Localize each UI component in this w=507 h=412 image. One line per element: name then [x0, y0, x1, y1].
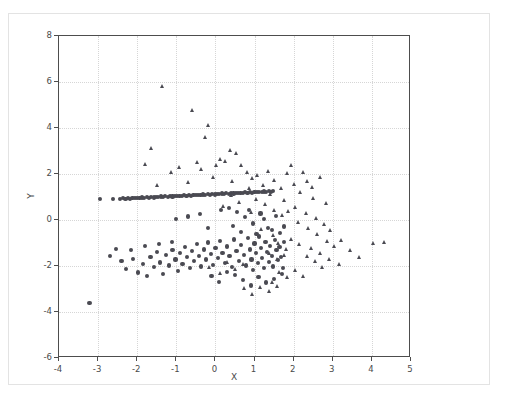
- data-point-triangles: [149, 146, 153, 150]
- data-point-circles: [204, 257, 208, 261]
- data-point-circles: [225, 244, 229, 248]
- data-point-circles: [183, 245, 187, 249]
- data-point-triangles: [247, 186, 251, 190]
- data-point-triangles: [259, 227, 263, 231]
- data-point-circles: [188, 266, 192, 270]
- data-point-triangles: [160, 84, 164, 88]
- data-point-triangles: [186, 180, 190, 184]
- data-point-triangles: [239, 163, 243, 167]
- x-tick-mark: [97, 357, 98, 361]
- data-point-triangles: [289, 163, 293, 167]
- data-point-circles: [243, 215, 247, 219]
- x-tick-mark: [371, 357, 372, 361]
- y-tick-label: 8: [30, 30, 52, 40]
- data-point-circles: [206, 226, 210, 230]
- data-point-circles: [164, 253, 168, 257]
- data-point-triangles: [292, 182, 296, 186]
- data-point-triangles: [177, 165, 181, 169]
- data-point-circles: [218, 239, 222, 243]
- y-tick-label: -6: [30, 352, 52, 362]
- data-point-triangles: [285, 275, 289, 279]
- x-tick-mark: [293, 357, 294, 361]
- data-point-triangles: [328, 228, 332, 232]
- data-point-triangles: [293, 268, 297, 272]
- y-tick-mark: [54, 127, 58, 128]
- data-point-triangles: [223, 159, 227, 163]
- data-point-circles: [190, 249, 194, 253]
- data-point-triangles: [297, 242, 301, 246]
- x-tick-label: 5: [407, 364, 412, 374]
- x-tick-label: 0: [212, 364, 217, 374]
- data-point-circles: [98, 197, 102, 201]
- data-point-circles: [174, 217, 178, 221]
- data-point-circles: [268, 244, 272, 248]
- data-point-circles: [227, 254, 231, 258]
- data-point-circles: [158, 260, 162, 264]
- data-point-circles: [254, 251, 258, 255]
- y-tick-label: -2: [30, 260, 52, 270]
- data-point-triangles: [280, 213, 284, 217]
- data-point-circles: [145, 274, 149, 278]
- data-point-triangles: [230, 179, 234, 183]
- x-tick-label: -3: [93, 364, 101, 374]
- y-tick-label: 4: [30, 122, 52, 132]
- data-point-circles: [271, 264, 275, 268]
- data-point-circles: [185, 255, 189, 259]
- data-point-circles: [186, 214, 190, 218]
- y-tick-label: 6: [30, 76, 52, 86]
- data-point-triangles: [266, 169, 270, 173]
- data-point-circles: [180, 262, 184, 266]
- data-point-triangles: [261, 183, 265, 187]
- data-point-triangles: [233, 267, 237, 271]
- data-point-triangles: [228, 148, 232, 152]
- data-point-triangles: [279, 186, 283, 190]
- x-tick-mark: [136, 357, 137, 361]
- data-point-triangles: [282, 198, 286, 202]
- data-point-triangles: [301, 274, 305, 278]
- data-point-circles: [259, 246, 263, 250]
- y-tick-mark: [54, 173, 58, 174]
- data-point-circles: [173, 257, 177, 261]
- data-point-triangles: [310, 185, 314, 189]
- data-point-triangles: [318, 175, 322, 179]
- data-point-circles: [270, 228, 274, 232]
- data-point-circles: [213, 246, 217, 250]
- data-point-triangles: [284, 247, 288, 251]
- data-point-circles: [209, 274, 213, 278]
- data-point-triangles: [214, 163, 218, 167]
- data-point-triangles: [348, 248, 352, 252]
- data-point-circles: [131, 257, 135, 261]
- data-point-triangles: [357, 255, 361, 259]
- data-point-circles: [277, 245, 281, 249]
- data-point-triangles: [305, 179, 309, 183]
- data-point-circles: [108, 254, 112, 258]
- data-point-circles: [256, 275, 260, 279]
- data-point-triangles: [311, 196, 315, 200]
- data-point-circles: [233, 273, 237, 277]
- data-point-triangles: [218, 157, 222, 161]
- data-point-circles: [282, 240, 286, 244]
- data-point-circles: [176, 269, 180, 273]
- y-axis-title: Y: [26, 193, 36, 199]
- data-point-triangles: [271, 233, 275, 237]
- data-point-triangles: [211, 175, 215, 179]
- x-axis-title: X: [231, 372, 237, 382]
- data-point-triangles: [207, 265, 211, 269]
- data-point-triangles: [289, 237, 293, 241]
- data-point-triangles: [282, 253, 286, 257]
- data-point-triangles: [320, 265, 324, 269]
- data-point-triangles: [225, 260, 229, 264]
- y-tick-mark: [54, 265, 58, 266]
- data-point-circles: [262, 266, 266, 270]
- x-tick-mark: [58, 357, 59, 361]
- data-point-circles: [192, 259, 196, 263]
- figure: -4-3-2-1012345-6-4-202468 X Y: [0, 0, 507, 412]
- data-point-triangles: [332, 244, 336, 248]
- data-point-circles: [227, 206, 231, 210]
- y-tick-mark: [54, 81, 58, 82]
- data-point-triangles: [195, 160, 199, 164]
- data-point-triangles: [206, 123, 210, 127]
- data-point-triangles: [237, 200, 241, 204]
- data-point-circles: [202, 247, 206, 251]
- data-point-triangles: [250, 292, 254, 296]
